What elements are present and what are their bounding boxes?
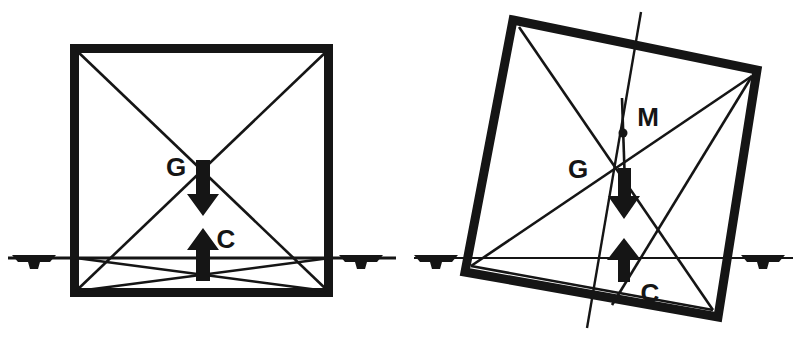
stability-diagram-svg: G C xyxy=(0,0,799,339)
water-support-right-icon xyxy=(339,255,383,269)
diagonal-tr-bl-heeled xyxy=(471,76,752,266)
label-G-heeled: G xyxy=(568,154,588,184)
buoyancy-arrow-heeled xyxy=(607,238,641,282)
diagram-canvas: G C xyxy=(0,0,799,339)
label-M: M xyxy=(637,102,659,132)
water-support-left-icon-heeled xyxy=(414,255,458,269)
label-G-upright: G xyxy=(166,152,186,182)
gravity-arrow-upright xyxy=(187,160,219,216)
label-C-upright: C xyxy=(217,224,236,254)
label-C-heeled: C xyxy=(641,278,660,308)
panel-upright-condition: G C xyxy=(8,49,396,293)
point-M-dot xyxy=(619,129,628,138)
waterplane-chord-right-heeled xyxy=(612,76,752,305)
hull-centreline xyxy=(587,12,641,328)
panel-heeled-condition: M G C xyxy=(414,12,793,328)
water-support-right-icon-heeled xyxy=(741,255,785,269)
water-support-left-icon xyxy=(12,255,56,269)
